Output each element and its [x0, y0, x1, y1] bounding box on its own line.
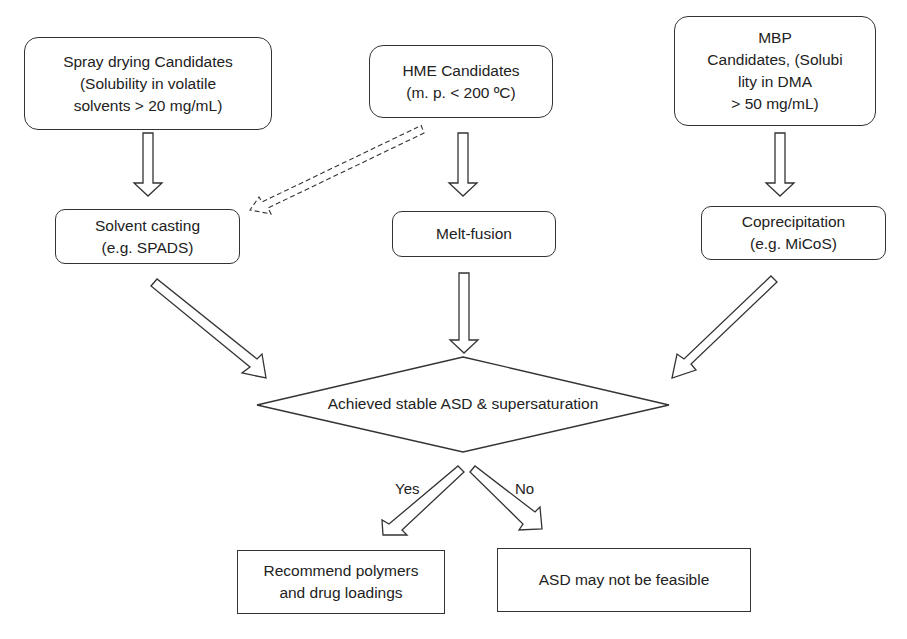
- node-mbp-candidates: MBP Candidates, (Solubi lity in DMA > 50…: [674, 16, 876, 126]
- arrow-spray-to-solvent: [134, 133, 162, 196]
- node-text: Coprecipitation: [742, 211, 845, 233]
- arrow-hme-to-melt: [449, 133, 477, 196]
- arrow-solvent-to-decision: [151, 279, 266, 378]
- arrow-decision-to-notfeasible: [470, 466, 542, 530]
- arrow-decision-to-recommend: [382, 466, 464, 535]
- arrow-copre-to-decision: [672, 276, 777, 378]
- node-melt-fusion: Melt-fusion: [392, 211, 556, 257]
- node-text: > 50 mg/mL): [731, 93, 818, 115]
- node-text: Candidates, (Solubi: [707, 49, 842, 71]
- node-text: Spray drying Candidates: [63, 51, 233, 73]
- node-asd-not-feasible: ASD may not be feasible: [497, 548, 751, 612]
- node-text: solvents > 20 mg/mL): [74, 95, 223, 117]
- node-text: and drug loadings: [279, 582, 402, 604]
- node-recommend-polymers: Recommend polymers and drug loadings: [237, 550, 445, 614]
- decision-label: Achieved stable ASD & supersaturation: [295, 395, 631, 413]
- node-text: Recommend polymers: [263, 560, 418, 582]
- node-text: Melt-fusion: [436, 223, 512, 245]
- node-text: lity in DMA: [738, 71, 812, 93]
- node-text: ASD may not be feasible: [539, 569, 710, 591]
- node-text: HME Candidates: [402, 60, 519, 82]
- edge-label-no: No: [515, 480, 534, 497]
- node-text: (Solubility in volatile: [80, 73, 216, 95]
- edge-label-yes: Yes: [395, 480, 419, 497]
- node-text: MBP: [758, 27, 792, 49]
- node-text: (e.g. MiCoS): [750, 233, 837, 255]
- node-coprecipitation: Coprecipitation (e.g. MiCoS): [701, 206, 886, 260]
- node-text: (m. p. < 200 ºC): [406, 82, 515, 104]
- arrow-melt-to-decision: [450, 273, 478, 353]
- node-hme-candidates: HME Candidates (m. p. < 200 ºC): [369, 45, 553, 118]
- node-spray-drying-candidates: Spray drying Candidates (Solubility in v…: [24, 37, 272, 130]
- node-solvent-casting: Solvent casting (e.g. SPADS): [55, 209, 240, 264]
- node-text: (e.g. SPADS): [102, 237, 194, 259]
- node-text: Solvent casting: [95, 215, 200, 237]
- arrow-mbp-to-copre: [766, 133, 794, 196]
- arrow-hme-to-solvent-dashed: [250, 125, 424, 214]
